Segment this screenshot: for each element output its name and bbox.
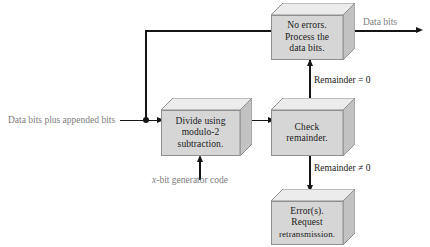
box-check-remainder[interactable]: Check remainder. — [271, 98, 355, 156]
label-generator-code: x-bit generator code — [152, 174, 228, 186]
arrowhead-into-noerrors — [307, 59, 313, 66]
label-remainder-zero: Remainder = 0 — [314, 74, 371, 86]
label-output-data-bits: Data bits — [363, 16, 397, 28]
connector-noerrors-to-output — [347, 30, 419, 32]
label-generator-rest: -bit generator code — [156, 175, 228, 185]
box-divide-label: Divide using modulo-2 subtraction. — [161, 116, 240, 151]
box-errors-label: Error(s). Request retransmission. — [271, 206, 343, 241]
box-no-errors-front-face: No errors. Process the data bits. — [271, 15, 343, 60]
box-no-errors-label: No errors. Process the data bits. — [271, 20, 343, 55]
arrowhead-into-divide-bottom — [197, 155, 203, 162]
label-remainder-nonzero: Remainder ≠ 0 — [314, 162, 370, 174]
box-divide[interactable]: Divide using modulo-2 subtraction. — [161, 98, 252, 156]
arrowhead-output — [416, 27, 423, 33]
diagram-canvas: No errors. Process the data bits. Divide… — [0, 0, 430, 247]
box-check-remainder-label: Check remainder. — [271, 122, 343, 145]
box-divide-front-face: Divide using modulo-2 subtraction. — [161, 110, 240, 156]
connector-feedback-horizontal — [145, 30, 278, 32]
box-errors-front-face: Error(s). Request retransmission. — [271, 201, 343, 245]
box-check-remainder-front-face: Check remainder. — [271, 110, 343, 156]
connector-feedback-vertical — [145, 31, 147, 120]
box-errors[interactable]: Error(s). Request retransmission. — [271, 189, 355, 245]
connector-check-to-noerrors — [309, 60, 311, 100]
label-input: Data bits plus appended bits — [8, 114, 115, 126]
box-no-errors[interactable]: No errors. Process the data bits. — [271, 3, 355, 60]
